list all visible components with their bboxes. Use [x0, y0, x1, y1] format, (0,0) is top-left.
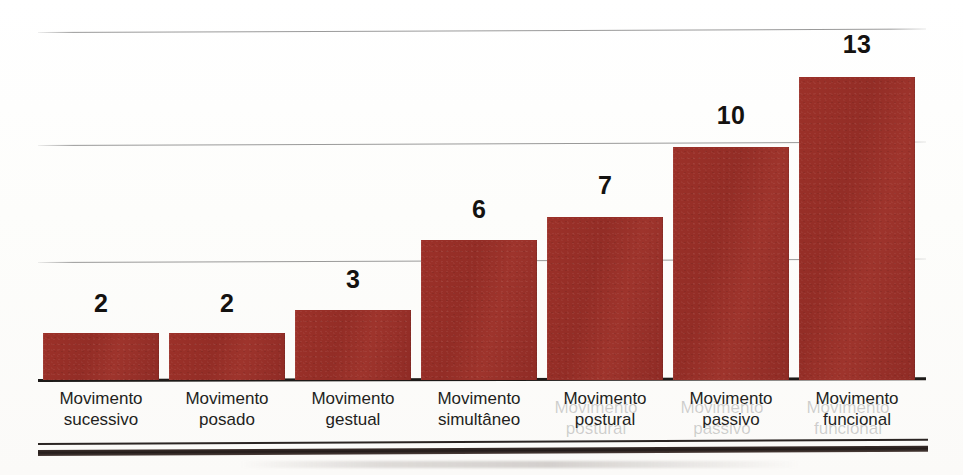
bar-value-label: 13: [799, 32, 915, 57]
bar-movimento-gestual[interactable]: [295, 310, 411, 380]
bar-movimento-simultaneo[interactable]: [421, 240, 537, 380]
bar-value-label: 7: [547, 173, 663, 198]
category-label-line2: simultâneo: [416, 409, 542, 430]
category-labels: Movimento sucessivo Movimento posado Mov…: [38, 388, 926, 440]
category-label-line1: Movimento: [290, 388, 416, 409]
bar-movimento-passivo[interactable]: [673, 147, 789, 380]
bar-movimento-postural[interactable]: [547, 217, 663, 380]
scanned-chart-page: 2 2 3 6 7 10 13 Movim: [0, 0, 963, 475]
category-label-line2: sucessivo: [38, 409, 164, 430]
category-label-movimento-simultaneo: Movimento simultâneo: [416, 388, 542, 430]
bottom-rule-thick: [38, 446, 928, 456]
category-label-movimento-sucessivo: Movimento sucessivo: [38, 388, 164, 430]
bar-value-label: 2: [169, 291, 285, 316]
category-label-line1: Movimento: [542, 388, 668, 409]
category-label-line2: passivo: [668, 409, 794, 430]
category-label-movimento-posado: Movimento posado: [164, 388, 290, 430]
category-label-line1: Movimento: [416, 388, 542, 409]
bar-value-label: 2: [43, 291, 159, 316]
bar-movimento-sucessivo[interactable]: [43, 333, 159, 380]
category-label-line1: Movimento: [38, 388, 164, 409]
bars-layer: 2 2 3 6 7 10 13: [38, 24, 926, 380]
category-label-line1: Movimento: [164, 388, 290, 409]
bar-movimento-funcional[interactable]: [799, 77, 915, 380]
category-label-line2: funcional: [794, 409, 920, 430]
category-label-line1: Movimento: [794, 388, 920, 409]
category-label-line1: Movimento: [668, 388, 794, 409]
bar-value-label: 10: [673, 103, 789, 128]
category-label-movimento-gestual: Movimento gestual: [290, 388, 416, 430]
category-label-line2: posado: [164, 409, 290, 430]
bar-movimento-posado[interactable]: [169, 333, 285, 380]
bar-value-label: 3: [295, 267, 411, 292]
bar-value-label: 6: [421, 197, 537, 222]
bottom-rule-smudge: [240, 461, 800, 468]
category-label-line2: postural: [542, 409, 668, 430]
category-label-movimento-postural: Movimento postural: [542, 388, 668, 430]
category-label-line2: gestual: [290, 409, 416, 430]
category-label-movimento-passivo: Movimento passivo: [668, 388, 794, 430]
category-label-movimento-funcional: Movimento funcional: [794, 388, 920, 430]
